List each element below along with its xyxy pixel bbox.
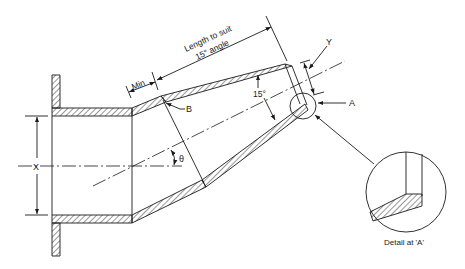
leader-b: B — [166, 103, 192, 114]
label-a: A — [349, 98, 355, 108]
label-y: Y — [326, 37, 332, 47]
pipe-section — [52, 108, 132, 223]
dimension-min: Min — [126, 72, 158, 98]
cone-section — [132, 64, 308, 223]
detail-a-view: Detail at 'A' — [366, 152, 446, 247]
detail-a-marker: A — [290, 93, 374, 164]
dimension-y: Y — [300, 37, 332, 95]
flange — [52, 75, 60, 256]
label-x: X — [33, 162, 39, 172]
label-15-degrees: 15° — [253, 89, 266, 99]
label-b: B — [186, 104, 192, 114]
dimension-x: X — [25, 116, 48, 215]
label-theta: θ — [179, 154, 184, 164]
detail-caption: Detail at 'A' — [384, 238, 424, 247]
dimension-theta: θ — [171, 150, 184, 165]
reducer-diagram: X θ Min Length to suit 15° angle B 15° Y — [0, 0, 465, 269]
centerlines — [18, 61, 345, 186]
label-min: Min — [130, 77, 147, 92]
